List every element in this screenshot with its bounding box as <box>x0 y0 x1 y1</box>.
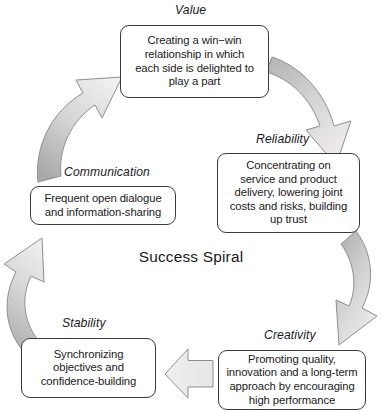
node-label-stability: Stability <box>62 316 106 330</box>
node-value-text: Creating a win−win relationship in which… <box>130 34 259 88</box>
node-stability-text: Synchronizing objectives and confidence-… <box>36 348 141 389</box>
arrow-value-to-reliability <box>266 57 351 165</box>
node-creativity: Promoting quality, innovation and a long… <box>218 350 366 410</box>
node-label-value: Value <box>175 3 206 17</box>
node-label-reliability: Reliability <box>256 132 309 146</box>
success-spiral-diagram: Success Spiral Value Creating a win−win … <box>0 0 382 412</box>
node-communication: Frequent open dialogue and information-s… <box>30 186 176 225</box>
node-value: Creating a win−win relationship in which… <box>120 25 269 98</box>
node-reliability: Concentrating on service and product del… <box>217 153 360 233</box>
node-creativity-text: Promoting quality, innovation and a long… <box>221 353 362 407</box>
node-stability: Synchronizing objectives and confidence-… <box>21 338 156 398</box>
node-reliability-text: Concentrating on service and product del… <box>225 159 352 227</box>
node-label-communication: Communication <box>64 165 150 179</box>
diagram-title: Success Spiral <box>0 248 382 266</box>
node-label-creativity: Creativity <box>264 328 316 342</box>
node-communication-text: Frequent open dialogue and information-s… <box>39 192 166 219</box>
arrow-creativity-to-stability <box>164 348 214 399</box>
